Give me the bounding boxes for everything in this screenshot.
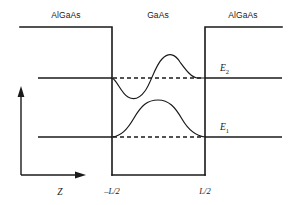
horizontal-axis-arrowhead <box>75 172 86 179</box>
tick-label-minus-half-l: –L/2 <box>103 186 120 196</box>
wavefunction-e2-antisymmetric <box>112 55 205 99</box>
vertical-axis-arrowhead <box>18 86 25 97</box>
energy-level-e2-label: E2 <box>219 63 229 75</box>
label-left-barrier-material: AlGaAs <box>51 10 80 20</box>
label-right-barrier-material: AlGaAs <box>228 10 257 20</box>
energy-level-e2-subscript: 2 <box>226 68 229 75</box>
wavefunction-e1-symmetric <box>112 100 205 137</box>
band-edge-right-barrier <box>205 27 282 175</box>
horizontal-axis-label: Z <box>57 187 63 197</box>
quantum-well-figure: AlGaAs GaAs AlGaAs E2 E1 <box>0 0 297 205</box>
energy-level-e1-group: E1 <box>38 100 282 137</box>
energy-level-e2-group: E2 <box>38 55 282 99</box>
energy-level-e1-label: E1 <box>219 122 229 134</box>
tick-label-plus-half-l: L/2 <box>198 186 211 196</box>
energy-level-e1-subscript: 1 <box>226 127 229 134</box>
label-well-material: GaAs <box>147 10 169 20</box>
figure-canvas: AlGaAs GaAs AlGaAs E2 E1 <box>0 0 297 205</box>
band-edge-left-barrier <box>20 27 112 175</box>
axes-group: Z <box>18 86 86 197</box>
